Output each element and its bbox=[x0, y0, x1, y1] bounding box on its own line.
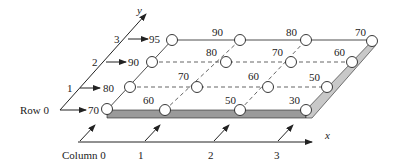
node-r3-c3 bbox=[367, 36, 378, 47]
row-0-value: 70 bbox=[88, 104, 100, 116]
node-r0-c0 bbox=[102, 104, 113, 115]
row-3-label: 3 bbox=[114, 33, 120, 45]
col-3-label: 3 bbox=[274, 149, 280, 161]
node-r2-c0 bbox=[147, 57, 158, 68]
value-r0-c1: 60 bbox=[143, 94, 155, 106]
node-r0-c2 bbox=[235, 105, 246, 116]
shaded-bottom-edge bbox=[107, 110, 306, 118]
node-r1-c1 bbox=[192, 82, 203, 93]
value-r1-c2: 60 bbox=[248, 70, 260, 82]
grid-diagram: y x Row 0 1 2 3 70 80 90 95 Column 0 1 2… bbox=[0, 0, 398, 164]
value-r1-c1: 70 bbox=[178, 70, 190, 82]
value-r1-c3: 50 bbox=[309, 71, 321, 83]
node-r3-c1 bbox=[235, 35, 246, 46]
node-r3-c2 bbox=[301, 35, 312, 46]
value-r2-c3: 60 bbox=[334, 46, 346, 58]
value-r3-c3: 70 bbox=[355, 26, 367, 38]
left-edge-line bbox=[107, 40, 172, 110]
value-r0-c3: 30 bbox=[289, 94, 301, 106]
value-r3-c2: 80 bbox=[286, 26, 298, 38]
node-r2-c3 bbox=[347, 57, 358, 68]
row-0-label: Row 0 bbox=[20, 104, 50, 116]
value-r2-c1: 80 bbox=[206, 46, 218, 58]
node-r0-c3 bbox=[301, 105, 312, 116]
row-2-value: 90 bbox=[128, 56, 140, 68]
row-2-label: 2 bbox=[92, 56, 98, 68]
row-1-value: 80 bbox=[103, 82, 115, 94]
node-r1-c2 bbox=[263, 82, 274, 93]
col-0-label: Column 0 bbox=[62, 149, 106, 161]
node-r0-c1 bbox=[160, 105, 171, 116]
row-1-label: 1 bbox=[67, 82, 73, 94]
y-axis-label: y bbox=[136, 4, 142, 16]
col-1-label: 1 bbox=[138, 149, 144, 161]
node-r3-c0 bbox=[167, 35, 178, 46]
value-r0-c2: 50 bbox=[225, 94, 237, 106]
value-r3-c1: 90 bbox=[212, 26, 224, 38]
node-r1-c3 bbox=[322, 82, 333, 93]
value-r2-c2: 70 bbox=[272, 46, 284, 58]
col-2-label: 2 bbox=[208, 149, 214, 161]
col-1-arrow bbox=[145, 125, 160, 141]
node-r2-c2 bbox=[286, 57, 297, 68]
col-3-arrow bbox=[278, 125, 293, 141]
node-r1-c0 bbox=[125, 82, 136, 93]
col-0-arrow bbox=[80, 125, 95, 141]
col-2-arrow bbox=[214, 125, 229, 141]
row-3-value: 95 bbox=[149, 33, 161, 45]
node-r2-c1 bbox=[221, 57, 232, 68]
x-axis-label: x bbox=[324, 129, 330, 141]
